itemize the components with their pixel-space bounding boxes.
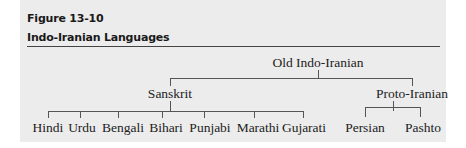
- bihari-drop: [162, 111, 163, 118]
- hindi-drop: [48, 111, 49, 118]
- figure-number: Figure 13-10: [27, 12, 104, 25]
- node-punjabi: Punjabi: [189, 121, 230, 135]
- node-hindi: Hindi: [33, 121, 64, 135]
- root-crossbar: [170, 78, 413, 79]
- title-underline: [27, 46, 440, 47]
- proto-iranian-stem: [393, 101, 394, 111]
- sanskrit-crossbar: [48, 111, 304, 112]
- node-persian: Persian: [345, 121, 385, 135]
- sanskrit-drop: [170, 78, 171, 86]
- proto-iranian-crossbar: [365, 107, 421, 108]
- persian-drop: [365, 107, 366, 117]
- pashto-drop: [420, 107, 421, 117]
- urdu-drop: [80, 111, 81, 118]
- node-gujarati: Gujarati: [282, 121, 326, 135]
- node-bihari: Bihari: [149, 121, 183, 135]
- node-marathi: Marathi: [237, 121, 280, 135]
- punjabi-drop: [204, 111, 205, 118]
- node-proto-iranian: Proto-Iranian: [376, 87, 448, 101]
- node-sanskrit: Sanskrit: [148, 87, 192, 101]
- node-pashto: Pashto: [405, 121, 441, 135]
- root-stem: [318, 70, 319, 78]
- proto-iranian-drop: [412, 78, 413, 86]
- figure-title: Indo-Iranian Languages: [27, 31, 169, 44]
- bengali-drop: [118, 111, 119, 118]
- node-urdu: Urdu: [68, 121, 96, 135]
- marathi-drop: [254, 111, 255, 118]
- gujarati-drop: [303, 111, 304, 118]
- node-bengali: Bengali: [102, 121, 144, 135]
- node-old-indo-iranian: Old Indo-Iranian: [272, 56, 363, 70]
